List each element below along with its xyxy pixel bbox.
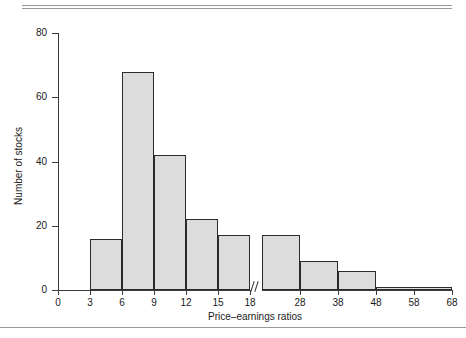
histogram-bar — [300, 261, 338, 290]
x-axis-tick-label: 28 — [288, 297, 312, 308]
x-axis-tick-label: 0 — [46, 297, 70, 308]
x-axis-tick — [376, 290, 377, 295]
x-axis-tick-label: 38 — [326, 297, 350, 308]
y-axis-tick — [52, 97, 59, 98]
top-rule-lower — [22, 8, 452, 9]
x-axis-tick — [338, 290, 339, 295]
histogram-bar — [338, 271, 376, 290]
histogram-bar — [122, 72, 154, 290]
histogram-bar — [90, 239, 122, 290]
histogram-bar — [218, 235, 250, 290]
x-axis-tick — [218, 290, 219, 295]
x-axis-tick — [452, 290, 453, 295]
x-axis-tick — [300, 290, 301, 295]
x-axis-tick-label: 12 — [174, 297, 198, 308]
x-axis-tick — [186, 290, 187, 295]
x-axis-tick-label: 48 — [364, 297, 388, 308]
x-axis-title: Price–earnings ratios — [58, 311, 452, 323]
x-axis-tick-label: 3 — [78, 297, 102, 308]
y-axis-tick — [52, 226, 59, 227]
x-axis-tick-label: 15 — [206, 297, 230, 308]
x-axis-tick — [154, 290, 155, 295]
bottom-rule — [0, 327, 466, 328]
y-axis-tick-label: 80 — [17, 28, 47, 38]
y-axis-tick-label: 0 — [17, 285, 47, 295]
x-axis-tick-label: 58 — [402, 297, 426, 308]
y-axis-title: Number of stocks — [13, 106, 25, 226]
figure-container: 020406080 03691215182838485868 Number of… — [0, 0, 466, 338]
x-axis-tick — [250, 290, 251, 295]
x-axis-line-right — [262, 290, 452, 291]
x-axis-tick-label: 68 — [440, 297, 464, 308]
x-axis-tick-label: 9 — [142, 297, 166, 308]
x-axis-tick — [122, 290, 123, 295]
y-axis-tick — [52, 162, 59, 163]
x-axis-tick — [90, 290, 91, 295]
x-axis-tick — [58, 290, 59, 295]
top-rule-upper — [22, 5, 452, 6]
x-axis-tick-label: 6 — [110, 297, 134, 308]
histogram-bar — [154, 155, 186, 290]
histogram-bar — [186, 219, 218, 290]
y-axis-tick-label: 60 — [17, 92, 47, 102]
histogram-bar — [376, 287, 452, 290]
x-axis-tick-label: 18 — [238, 297, 262, 308]
y-axis-tick — [52, 33, 59, 34]
histogram-bar — [262, 235, 300, 290]
x-axis-tick — [414, 290, 415, 295]
